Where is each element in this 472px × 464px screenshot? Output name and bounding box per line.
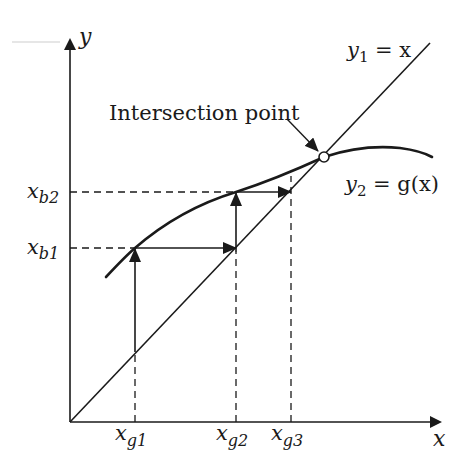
x-tick-xg2: xg2: [216, 421, 248, 450]
curve-label: y2 = g(x): [344, 172, 439, 200]
x-tick-xg1: xg1: [115, 421, 147, 450]
line-y1-equals-x: [70, 43, 430, 422]
annotation-text: Intersection point: [109, 101, 300, 125]
fixed-point-diagram: y x Intersection point y1 = x y2 = g(x) …: [0, 0, 472, 464]
x-axis-label: x: [433, 426, 446, 451]
y-tick-xb1: xb1: [27, 235, 59, 263]
dashed-guides: [70, 176, 291, 422]
x-tick-xg3: xg3: [271, 421, 303, 450]
diagram-svg: y x Intersection point y1 = x y2 = g(x) …: [0, 0, 472, 464]
intersection-point-marker: [319, 152, 329, 162]
y-axis-label: y: [78, 24, 92, 49]
y-tick-xb2: xb2: [27, 179, 59, 207]
line-label: y1 = x: [346, 38, 411, 66]
